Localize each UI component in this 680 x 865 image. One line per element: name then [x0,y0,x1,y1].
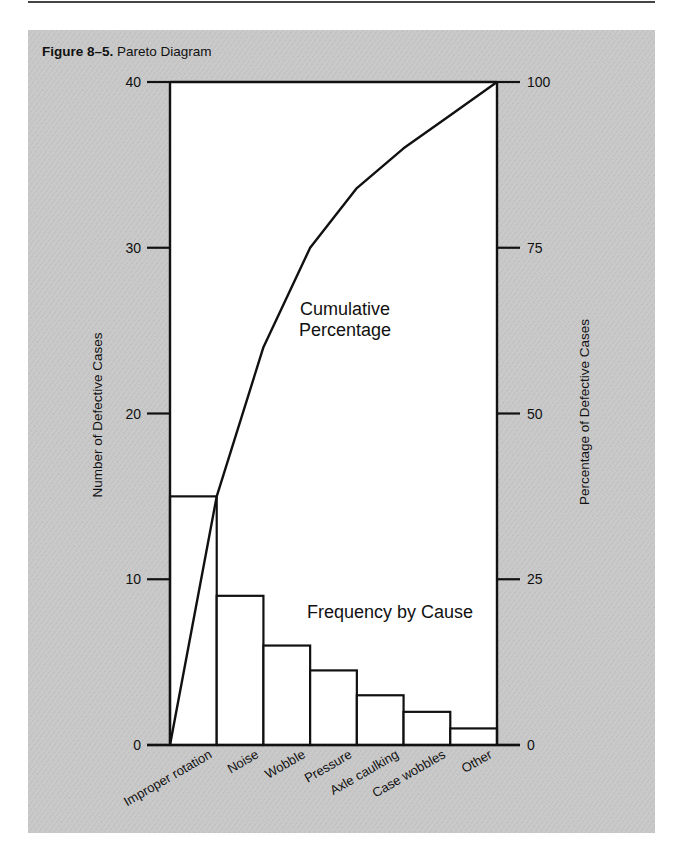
bar-noise [217,596,264,745]
right-tick-label: 100 [527,74,551,90]
right-tick-label: 0 [527,737,535,753]
left-tick-label: 0 [133,737,141,753]
right-tick-label: 75 [527,240,543,256]
bar-wobble [263,646,310,745]
left-axis-ticks: 010203040 [125,74,170,753]
right-axis-ticks: 0255075100 [497,74,551,753]
left-tick-label: 30 [125,240,141,256]
bar-axle-caulking [357,695,404,745]
cumulative-annotation-line2: Percentage [299,320,391,340]
bar-pressure [310,670,357,745]
bar-other [450,728,497,745]
category-labels: Improper rotationNoiseWobblePressureAxle… [121,746,495,809]
right-tick-label: 25 [527,571,543,587]
category-label: Wobble [262,747,307,782]
left-tick-label: 20 [125,406,141,422]
bar-case-wobbles [404,712,451,745]
category-label: Other [459,746,495,776]
category-label: Noise [225,747,261,777]
left-tick-label: 10 [125,571,141,587]
pareto-chart: 010203040 0255075100 Improper rotationNo… [0,0,680,865]
cumulative-annotation-line1: Cumulative [300,299,390,319]
left-axis-title: Number of Defective Cases [90,332,105,497]
category-label: Improper rotation [121,747,214,809]
right-tick-label: 50 [527,406,543,422]
left-tick-label: 40 [125,74,141,90]
right-axis-title: Percentage of Defective Cases [577,319,592,505]
frequency-annotation: Frequency by Cause [307,602,473,622]
